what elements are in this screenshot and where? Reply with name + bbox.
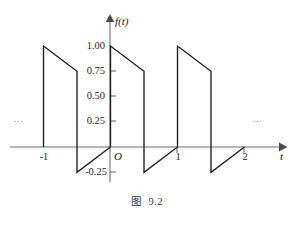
y-tick-label-0.75: 0.75 <box>72 66 105 77</box>
y-tick-label-neg-0.25: -0.25 <box>67 167 107 178</box>
left-continuation-ellipsis: ... <box>14 114 23 124</box>
waveform-plot <box>0 0 294 225</box>
y-axis-arrow-icon <box>106 14 114 22</box>
waveform-curve <box>44 46 245 172</box>
figure-caption-number: 9.2 <box>148 196 163 207</box>
x-tick-label-1: 1 <box>167 152 189 163</box>
figure-caption-prefix: 图 <box>131 196 142 207</box>
y-tick-label-1.00: 1.00 <box>72 41 105 52</box>
y-tick-label-0.50: 0.50 <box>72 91 105 102</box>
x-tick-label-2: 2 <box>234 152 256 163</box>
figure-container: 1.00 0.75 0.50 0.25 -0.25 -1 1 2 O f(t) … <box>0 0 294 225</box>
origin-label: O <box>114 151 122 162</box>
y-tick-label-0.25: 0.25 <box>72 116 105 127</box>
x-tick-label-neg-1: -1 <box>32 152 56 163</box>
x-axis-label: t <box>280 151 283 162</box>
right-continuation-ellipsis: ... <box>253 114 262 124</box>
figure-caption: 图9.2 <box>0 197 294 208</box>
y-axis-label: f(t) <box>115 16 128 27</box>
